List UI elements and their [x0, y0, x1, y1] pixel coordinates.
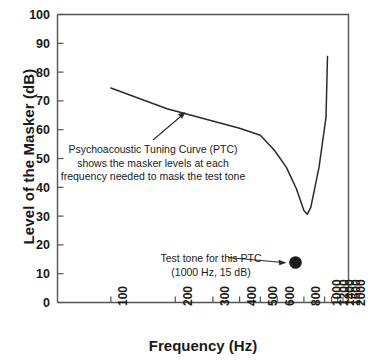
- x-axis-title: Frequency (Hz): [57, 337, 349, 354]
- x-tick-label-100: 100: [116, 286, 130, 306]
- ptc-annotation-arrow: [153, 112, 186, 140]
- x-tick-label-600: 600: [283, 286, 297, 306]
- ptc-annotation-line-3: frequency needed to mask the test tone: [60, 170, 246, 184]
- x-tick-label-800: 800: [309, 286, 323, 306]
- ptc-curve: [111, 57, 328, 215]
- test-tone-marker: [289, 256, 302, 269]
- y-tick-label-100: 100: [18, 8, 50, 22]
- test-tone-annotation-line-2: (1000 Hz, 15 dB): [140, 266, 282, 280]
- x-tick-label-300: 300: [218, 286, 232, 306]
- y-axis-title: Level of the Masker (dB): [20, 47, 37, 267]
- ptc-annotation-line-1: Psychoacoustic Tuning Curve (PTC): [60, 143, 246, 157]
- y-tick-label-0: 0: [18, 296, 50, 310]
- x-tick-label-200: 200: [181, 286, 195, 306]
- test-tone-annotation-line-1: Test tone for this PTC: [140, 252, 282, 266]
- y-tick-label-10: 10: [18, 267, 50, 281]
- test-tone-annotation-text: Test tone for this PTC (1000 Hz, 15 dB): [140, 252, 282, 279]
- x-tick-label-400: 400: [245, 286, 259, 306]
- x-tick-label-2000: 2000: [354, 279, 368, 306]
- ptc-annotation-line-2: shows the masker levels at each: [60, 157, 246, 171]
- ptc-annotation-text: Psychoacoustic Tuning Curve (PTC) shows …: [60, 143, 246, 184]
- x-tick-label-500: 500: [266, 286, 280, 306]
